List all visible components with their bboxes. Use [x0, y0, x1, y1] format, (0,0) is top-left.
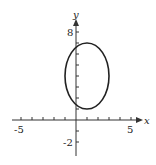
y-tick-label-max: 8	[67, 27, 73, 38]
x-axis-arrow-icon	[136, 117, 143, 123]
y-axis-label: y	[72, 9, 79, 20]
ellipse-curve	[65, 43, 109, 109]
chart-svg: x y -5 5 8 -2	[0, 0, 156, 165]
x-tick-label-min: -5	[14, 124, 24, 135]
x-tick-label-max: 5	[127, 124, 133, 135]
y-axis-arrow-icon	[73, 19, 79, 26]
x-axis-label: x	[144, 115, 150, 126]
axes	[12, 19, 143, 156]
y-tick-label-min: -2	[63, 137, 73, 148]
